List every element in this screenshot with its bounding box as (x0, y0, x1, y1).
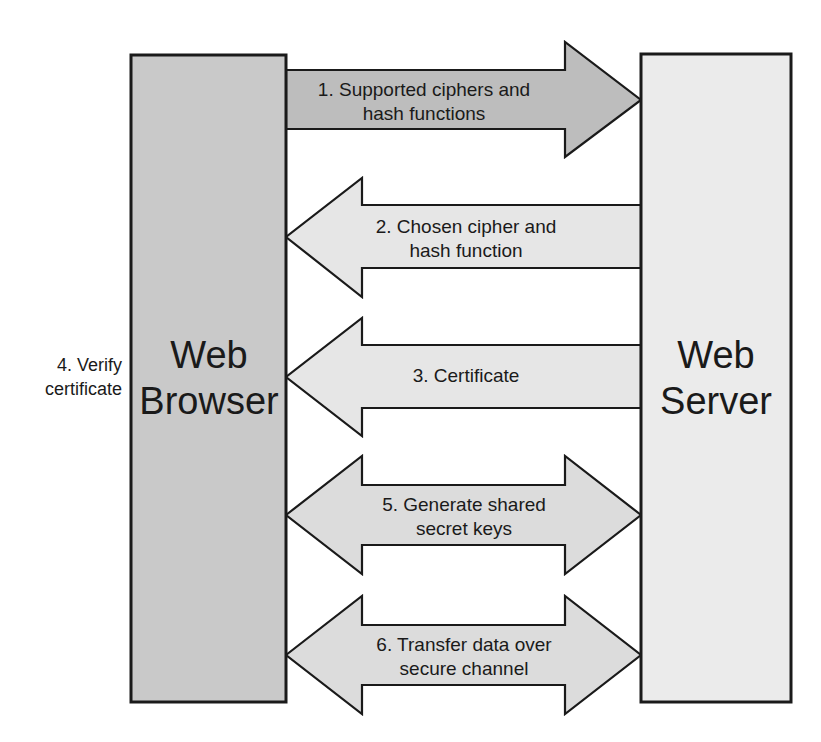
web-browser-box (131, 55, 286, 702)
arrow-2-shape (286, 178, 641, 297)
web-browser-label-line2: Browser (139, 380, 279, 422)
tls-handshake-diagram: 1. Supported ciphers and hash functions … (0, 0, 821, 742)
web-server-box (641, 54, 791, 702)
arrow-2-label-line1: 2. Chosen cipher and (376, 216, 557, 237)
arrow-3-label-line1: 3. Certificate (413, 365, 520, 386)
verify-certificate-line1: 4. Verify (57, 355, 122, 375)
arrow-1-label-line1: 1. Supported ciphers and (318, 79, 530, 100)
web-server-label-line1: Web (677, 334, 754, 376)
arrow-6-label-line2: secure channel (400, 658, 529, 679)
arrow-6-transfer-data: 6. Transfer data over secure channel (286, 596, 641, 714)
arrow-2-label-line2: hash function (409, 240, 522, 261)
arrow-2-chosen-cipher: 2. Chosen cipher and hash function (286, 178, 641, 297)
arrow-1-supported-ciphers: 1. Supported ciphers and hash functions (286, 42, 641, 157)
web-server-label-line2: Server (660, 380, 772, 422)
diagram-canvas: 1. Supported ciphers and hash functions … (0, 0, 821, 742)
node-web-browser: Web Browser (131, 55, 286, 702)
arrow-1-label-line2: hash functions (363, 103, 486, 124)
web-browser-label-line1: Web (170, 334, 247, 376)
arrow-5-label-line1: 5. Generate shared (382, 494, 546, 515)
arrow-5-label-line2: secret keys (416, 518, 512, 539)
verify-certificate-line2: certificate (45, 379, 122, 399)
arrow-3-certificate: 3. Certificate (286, 318, 641, 436)
node-web-server: Web Server (641, 54, 791, 702)
side-label-verify-certificate: 4. Verify certificate (45, 355, 122, 399)
arrow-5-generate-shared-secret-keys: 5. Generate shared secret keys (286, 456, 641, 574)
arrow-6-label-line1: 6. Transfer data over (376, 634, 552, 655)
